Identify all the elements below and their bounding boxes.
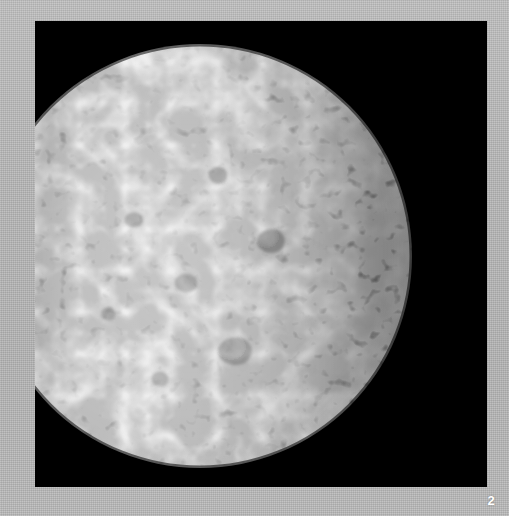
page-number: 2 [487, 494, 495, 507]
photo-panel [35, 21, 487, 487]
moon-surface-image [35, 21, 487, 487]
photo-page: 2 [0, 0, 509, 516]
